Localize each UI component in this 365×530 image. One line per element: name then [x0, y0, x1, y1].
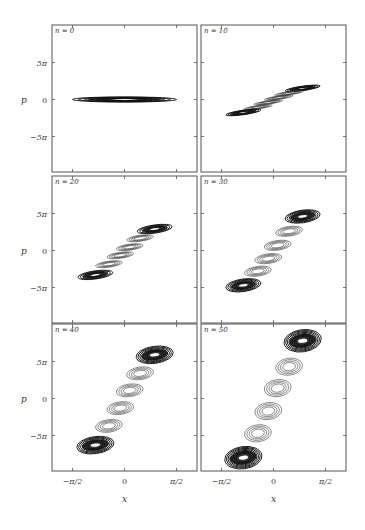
contour-group	[76, 344, 175, 456]
panel-title: n = 0	[55, 27, 75, 35]
wavepacket-contour	[244, 265, 272, 278]
wavepacket-contour	[254, 252, 282, 265]
contour-ring	[254, 252, 282, 265]
contour-ring	[275, 225, 303, 238]
contour-ring	[115, 382, 144, 398]
panel-n-10: n = 10	[201, 25, 346, 172]
panel-n-40: n = 405π0−5πp−π/20π/2x	[21, 324, 197, 504]
panel-frame	[201, 25, 346, 172]
contour-ring	[106, 400, 135, 416]
contour-group	[73, 97, 177, 102]
wavepacket-contour	[263, 378, 292, 399]
x-tick-label: π/2	[318, 477, 332, 486]
panel-n-0: n = 05π0−5πp	[21, 25, 197, 172]
wavepacket-contour	[76, 434, 115, 456]
wavepacket-contour	[225, 277, 262, 294]
wavepacket-contour	[243, 423, 272, 444]
contour-ring	[126, 365, 155, 381]
y-tick-label: −5π	[30, 284, 48, 293]
x-tick-label: −π/2	[212, 477, 232, 486]
contour-ring	[280, 360, 299, 373]
panel-title: n = 20	[55, 178, 79, 186]
wavepacket-contour	[106, 400, 135, 416]
y-tick-label: 5π	[37, 358, 48, 367]
panel-frame	[201, 324, 346, 471]
x-axis-label: x	[271, 494, 276, 504]
x-tick-label: 0	[122, 477, 127, 486]
wavepacket-contour	[254, 401, 283, 422]
contour-ring	[244, 265, 272, 278]
wavepacket-contour	[264, 239, 292, 252]
panel-title: n = 40	[55, 326, 79, 334]
x-axis-label: x	[122, 494, 127, 504]
wavepacket-contour	[275, 356, 304, 377]
y-axis-label: p	[21, 246, 27, 256]
wavepacket-contour	[137, 223, 173, 236]
x-tick-label: π/2	[169, 477, 183, 486]
y-tick-label: 5π	[37, 59, 48, 68]
y-tick-label: 0	[42, 395, 47, 404]
wavepacket-contour	[283, 327, 323, 354]
wavepacket-contour	[126, 233, 154, 243]
y-axis-label: p	[21, 394, 27, 404]
contour-group	[226, 84, 321, 117]
panel-n-20: n = 205π0−5πp	[21, 176, 197, 323]
wavepacket-contour	[116, 242, 144, 252]
contour-center	[112, 99, 138, 100]
y-axis-label: p	[21, 95, 27, 105]
contour-ring	[268, 381, 287, 394]
wavepacket-contour	[95, 418, 124, 434]
y-tick-label: −5π	[30, 432, 48, 441]
wavepacket-contour	[115, 382, 144, 398]
contour-ring	[251, 428, 265, 438]
contour-group	[225, 208, 321, 294]
contour-ring	[282, 362, 296, 372]
figure: n = 05π0−5πpn = 10n = 205π0−5πpn = 30n =…	[0, 0, 365, 530]
contour-group	[77, 223, 172, 282]
panel-title: n = 10	[204, 27, 228, 35]
y-tick-label: −5π	[30, 133, 48, 142]
panel-title: n = 30	[204, 178, 228, 186]
x-tick-label: 0	[271, 477, 276, 486]
contour-ring	[261, 406, 275, 416]
x-tick-label: −π/2	[63, 477, 83, 486]
contour-ring	[259, 404, 278, 417]
panel-frame	[52, 324, 197, 471]
wavepacket-contour	[223, 444, 263, 471]
wavepacket-contour	[95, 259, 123, 269]
y-tick-label: 0	[42, 96, 47, 105]
wavepacket-contour	[73, 97, 177, 102]
panel-n-30: n = 30	[201, 176, 346, 323]
wavepacket-contour	[107, 250, 135, 260]
wavepacket-contour	[126, 365, 155, 381]
contour-ring	[264, 239, 292, 252]
y-tick-label: 5π	[37, 210, 48, 219]
wavepacket-contour	[135, 344, 174, 366]
contour-group	[223, 327, 322, 471]
contour-ring	[95, 418, 124, 434]
wavepacket-contour	[284, 208, 321, 225]
y-tick-label: 0	[42, 247, 47, 256]
panel-title: n = 50	[204, 326, 228, 334]
panel-n-50: n = 50−π/20π/2x	[201, 324, 346, 504]
contour-ring	[248, 427, 267, 440]
wavepacket-contour	[275, 225, 303, 238]
wavepacket-contour	[77, 268, 113, 281]
contour-ring	[271, 383, 285, 393]
